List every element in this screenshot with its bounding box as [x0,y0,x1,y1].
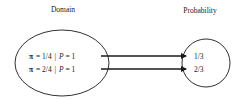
range-item-1: 1/3 [194,52,204,61]
conditional-bar: | [55,65,57,74]
range-label: Probability [183,6,217,15]
mapping-diagram: Domain Probability π = 1/4 | P = 1 π = 2… [0,0,237,101]
conditional-bar: | [55,52,57,61]
p-symbol: P [58,65,64,74]
pi-value: = 1/4 [36,52,52,61]
p-value: = 1 [65,65,75,74]
domain-item-2: π = 2/4 | P = 1 [29,65,76,74]
pi-symbol: π [29,65,34,74]
range-circle [182,39,230,87]
p-symbol: P [58,52,64,61]
domain-label: Domain [51,5,75,14]
domain-ellipse [15,30,109,96]
pi-value: = 2/4 [36,65,52,74]
domain-item-1: π = 1/4 | P = 1 [29,52,76,61]
p-value: = 1 [65,52,75,61]
pi-symbol: π [29,52,34,61]
range-item-2: 2/3 [194,65,204,74]
